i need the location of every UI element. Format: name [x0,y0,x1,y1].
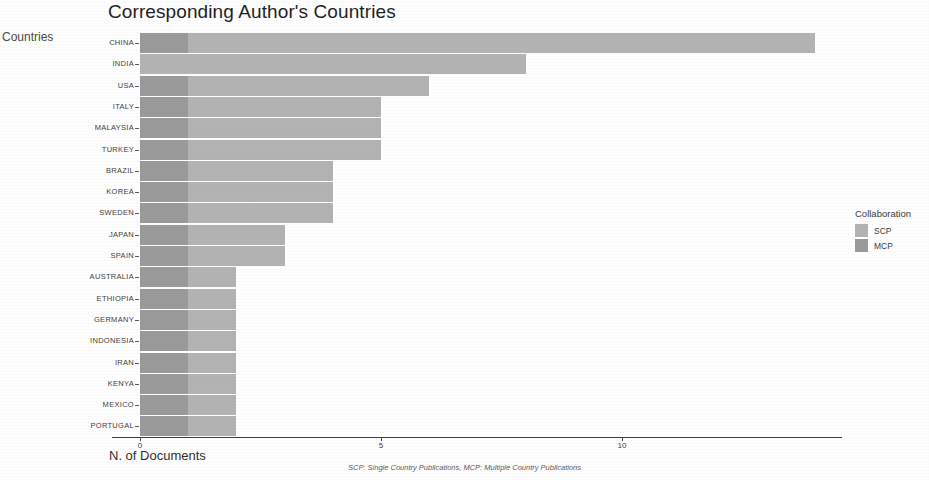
bar-segment-mcp [140,353,188,373]
y-axis-tick-mark [135,150,139,151]
y-axis-tick-label: KENYA [108,379,134,388]
legend-swatch-mcp [855,239,868,252]
legend-swatch-scp [855,224,868,237]
bar-row [140,225,285,245]
bar-row [140,289,236,309]
bar-segment-scp [188,310,236,330]
bar-row [140,54,526,74]
y-axis-tick-mark [135,405,139,406]
y-axis-tick-label: KOREA [106,187,134,196]
plot-area [140,30,840,436]
legend-item[interactable]: MCP [855,239,929,252]
bar-segment-scp [188,353,236,373]
y-axis-tick-label: AUSTRALIA [90,272,134,281]
y-axis-tick-label: IRAN [115,358,134,367]
x-axis-title: N. of Documents [109,448,206,463]
x-axis-line [112,437,842,438]
y-axis-tick-mark [135,384,139,385]
legend-title: Collaboration [855,208,929,219]
bar-segment-scp [188,33,815,53]
bar-segment-mcp [140,331,188,351]
bar-segment-scp [188,374,236,394]
bar-segment-mcp [140,182,188,202]
y-axis-tick-mark [135,277,139,278]
bar-row [140,76,429,96]
legend: Collaboration SCPMCP [855,208,929,254]
bar-segment-scp [140,54,526,74]
bar-segment-mcp [140,203,188,223]
bar-row [140,33,815,53]
bar-segment-mcp [140,33,188,53]
bar-segment-scp [188,140,381,160]
y-axis-tick-label: ITALY [113,102,134,111]
y-axis-tick-label: INDIA [112,59,134,68]
bar-row [140,203,333,223]
y-axis-tick-label: BRAZIL [106,166,134,175]
bar-segment-scp [188,395,236,415]
y-axis-tick-mark [135,256,139,257]
legend-item[interactable]: SCP [855,224,929,237]
bar-row [140,267,236,287]
y-axis-tick-mark [135,363,139,364]
bar-row [140,353,236,373]
bar-row [140,97,381,117]
legend-label: MCP [874,241,893,251]
bar-segment-scp [188,203,333,223]
bar-row [140,182,333,202]
bar-segment-scp [188,161,333,181]
bar-segment-mcp [140,97,188,117]
bar-row [140,140,381,160]
y-axis-tick-mark [135,341,139,342]
bar-segment-scp [188,267,236,287]
y-axis-tick-mark [135,86,139,87]
bar-segment-mcp [140,161,188,181]
bar-segment-mcp [140,118,188,138]
bar-segment-scp [188,331,236,351]
y-axis-tick-mark [135,235,139,236]
y-axis-tick-label: USA [118,81,134,90]
x-axis-tick-label: 10 [618,441,627,450]
bar-segment-scp [188,246,284,266]
y-axis-tick-label: SWEDEN [99,208,134,217]
bar-segment-scp [188,225,284,245]
y-axis-tick-mark [135,192,139,193]
bar-segment-mcp [140,374,188,394]
y-axis-tick-mark [135,320,139,321]
y-axis-tick-label: MALAYSIA [95,123,134,132]
y-axis-tick-mark [135,107,139,108]
bar-segment-mcp [140,267,188,287]
y-axis-tick-label: JAPAN [109,230,134,239]
bar-segment-mcp [140,395,188,415]
bar-segment-scp [188,97,381,117]
bar-segment-scp [188,182,333,202]
y-axis-tick-labels: CHINAINDIAUSAITALYMALAYSIATURKEYBRAZILKO… [0,30,134,436]
legend-items: SCPMCP [855,224,929,252]
bar-row [140,246,285,266]
y-axis-tick-label: INDONESIA [90,336,134,345]
bar-row [140,161,333,181]
bar-segment-scp [188,76,429,96]
bar-segment-mcp [140,289,188,309]
bar-segment-mcp [140,140,188,160]
y-axis-tick-label: TURKEY [102,145,134,154]
y-axis-tick-mark [135,426,139,427]
bar-segment-scp [188,289,236,309]
bar-segment-scp [188,118,381,138]
y-axis-tick-mark [135,213,139,214]
y-axis-tick-label: ETHIOPIA [97,294,134,303]
legend-label: SCP [874,226,891,236]
y-axis-tick-label: PORTUGAL [90,421,134,430]
bar-row [140,118,381,138]
bar-segment-mcp [140,416,188,436]
bar-segment-mcp [140,225,188,245]
bar-segment-mcp [140,246,188,266]
y-axis-tick-label: MEXICO [103,400,134,409]
y-axis-tick-label: GERMANY [94,315,134,324]
y-axis-tick-mark [135,171,139,172]
y-axis-tick-mark [135,299,139,300]
bar-row [140,310,236,330]
y-axis-tick-mark [135,64,139,65]
bar-row [140,416,236,436]
bar-segment-mcp [140,76,188,96]
page-title: Corresponding Author's Countries [108,1,396,23]
